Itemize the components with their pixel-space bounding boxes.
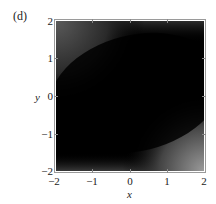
y-tick-mark	[54, 96, 58, 97]
x-tick-label: 2	[194, 176, 214, 187]
x-tick-mark	[130, 169, 131, 173]
x-tick-mark	[130, 19, 131, 23]
y-tick-label: −1	[33, 129, 53, 140]
heatmap-intensity	[56, 21, 204, 171]
x-tick-mark	[92, 169, 93, 173]
heatmap-plot-area	[56, 21, 204, 171]
y-tick-label: 2	[33, 16, 53, 27]
panel-label: (d)	[13, 9, 27, 24]
x-tick-mark	[167, 19, 168, 23]
y-tick-mark	[202, 134, 206, 135]
x-tick-mark	[167, 169, 168, 173]
x-axis-label: x	[127, 188, 132, 200]
x-tick-label: 0	[120, 176, 140, 187]
y-tick-mark	[54, 134, 58, 135]
y-tick-label: 1	[33, 53, 53, 64]
x-tick-label: −1	[82, 176, 102, 187]
y-axis-label: y	[35, 91, 40, 103]
y-tick-mark	[54, 58, 58, 59]
y-tick-mark	[202, 58, 206, 59]
x-tick-label: −2	[44, 176, 64, 187]
x-tick-mark	[92, 19, 93, 23]
y-tick-mark	[202, 96, 206, 97]
x-tick-label: 1	[157, 176, 177, 187]
